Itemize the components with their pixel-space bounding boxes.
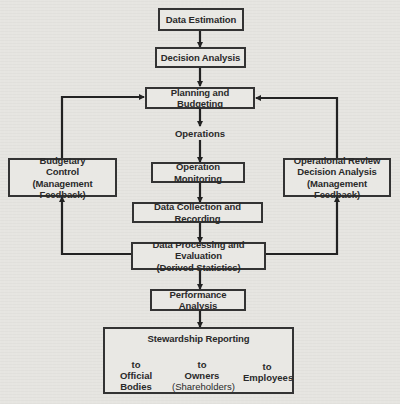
node-label: Decision Analysis (161, 52, 240, 64)
node-label: Operation Monitoring (153, 161, 243, 184)
target-label: Employees (243, 372, 291, 383)
arrow-review-to-planning (256, 98, 337, 158)
target-prefix: to (172, 359, 232, 370)
node-label-line3: (Management Feedback) (10, 178, 115, 201)
node-operational-review: Operational Review Decision Analysis (Ma… (283, 158, 391, 197)
node-label-line1: Budgetary (39, 155, 85, 167)
node-data-processing: Data Processing and Evaluation (Derived … (131, 242, 266, 270)
node-label: Stewardship Reporting (148, 333, 250, 345)
node-label-line2: Control (46, 166, 79, 178)
node-label-line1: Data Processing and Evaluation (133, 239, 264, 262)
node-planning-budgeting: Planning and Budgeting (145, 87, 255, 109)
node-label-line2: (Derived Statistics) (156, 262, 240, 274)
node-data-estimation: Data Estimation (158, 8, 244, 31)
node-data-collection: Data Collection and Recording (132, 202, 263, 223)
node-decision-analysis: Decision Analysis (155, 47, 246, 68)
target-official-bodies: to Official Bodies (104, 359, 168, 392)
node-label: Performance Analysis (152, 289, 244, 312)
arrow-processing-to-budgetary (62, 197, 131, 254)
target-label: Owners (172, 370, 232, 381)
target-prefix: to (243, 361, 291, 372)
node-label: Planning and Budgeting (147, 87, 253, 110)
node-budgetary-control: Budgetary Control (Management Feedback) (8, 158, 117, 197)
arrow-budgetary-to-planning (62, 97, 144, 158)
target-sublabel: (Shareholders) (172, 381, 232, 392)
arrow-processing-to-review (266, 197, 337, 254)
node-operations: Operations (160, 128, 240, 139)
target-prefix: to (104, 359, 168, 370)
node-label: Data Estimation (166, 14, 236, 26)
target-label: Official Bodies (104, 370, 168, 392)
node-label-line2: Decision Analysis (297, 166, 376, 178)
target-owners: to Owners (Shareholders) (172, 359, 232, 392)
node-label-line3: (Management Feedback) (285, 178, 389, 201)
node-performance-analysis: Performance Analysis (150, 289, 246, 311)
target-employees: to Employees (243, 361, 291, 383)
node-operation-monitoring: Operation Monitoring (151, 162, 245, 183)
node-label: Data Collection and Recording (134, 201, 261, 224)
node-label-line1: Operational Review (294, 155, 380, 167)
